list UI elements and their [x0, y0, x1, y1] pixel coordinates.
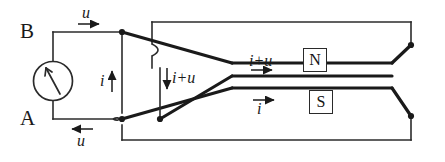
junction-dot-bottom-left: [119, 116, 125, 122]
wire-hop-upper-boundary: [152, 44, 158, 56]
terminal-label-a: A: [20, 108, 35, 129]
label-bottom-voltage: u: [77, 133, 85, 149]
figure-root: B A u u i i+u i+u i N S: [0, 0, 445, 162]
conductor-lower-taper-outer: [122, 88, 232, 119]
label-lower-line-current: i: [257, 101, 261, 117]
source-needle-barb-left: [45, 68, 46, 76]
terminal-label-b: B: [20, 21, 34, 42]
junction-dot-right-top: [408, 42, 414, 48]
label-upper-line-current: i+u: [249, 53, 272, 69]
junction-dot-bottom-mid: [157, 116, 163, 122]
conductor-lower-terminal-lead: [392, 88, 411, 116]
pole-box-south: S: [309, 90, 333, 114]
wire-hop-bottom-left: [113, 118, 119, 120]
conductor-upper-terminal-lead: [392, 45, 411, 63]
junction-dot-right-bottom: [408, 113, 414, 119]
label-branch-current: i+u: [172, 70, 195, 86]
pole-box-north: N: [303, 48, 327, 72]
label-source-current: i: [100, 73, 104, 89]
junction-dot-top: [119, 29, 125, 35]
circuit-diagram-canvas: [0, 0, 445, 162]
label-top-voltage: u: [82, 5, 90, 21]
conductor-upper-taper: [122, 32, 232, 63]
